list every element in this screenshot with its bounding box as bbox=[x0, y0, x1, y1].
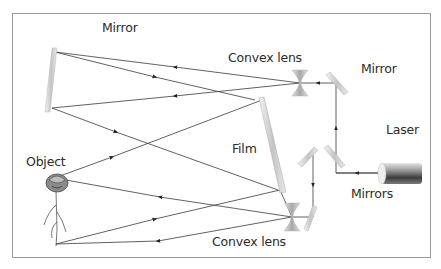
label-mirrors: Mirrors bbox=[351, 186, 393, 201]
label-convex-lens-bottom: Convex lens bbox=[212, 234, 286, 249]
label-object: Object bbox=[26, 154, 66, 169]
label-laser: Laser bbox=[386, 122, 419, 137]
label-convex-lens-top: Convex lens bbox=[228, 50, 302, 65]
label-mirror-top: Mirror bbox=[102, 20, 138, 35]
holography-diagram: Mirror Convex lens Mirror Laser Object F… bbox=[0, 0, 441, 269]
label-mirror-right: Mirror bbox=[361, 61, 397, 76]
label-film: Film bbox=[232, 141, 257, 156]
